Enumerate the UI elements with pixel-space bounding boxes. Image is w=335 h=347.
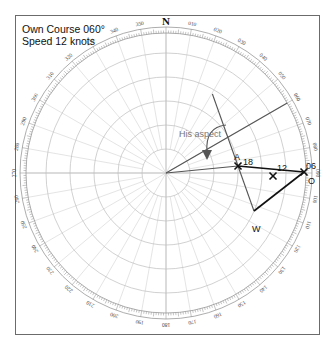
bearing-label: 350: [135, 20, 144, 27]
bearing-label: 070: [304, 116, 313, 126]
time-12-label: 12: [277, 163, 287, 173]
bearing-spoke: [170, 197, 190, 311]
bearing-label: 040: [258, 52, 268, 62]
bearing-label: 180: [162, 322, 171, 328]
bearing-label: 270: [11, 169, 17, 178]
time-18-label: 18: [243, 157, 253, 167]
radar-plotting-sheet: 0100200300400500600700800901001101201301…: [0, 0, 335, 347]
bearing-label: 200: [109, 311, 119, 320]
his-aspect-label: His aspect: [179, 129, 222, 139]
bearing-label: 100: [312, 195, 319, 204]
bearing-label: 240: [30, 244, 39, 254]
bearing-label: 340: [109, 26, 119, 35]
bearing-label: 320: [63, 52, 73, 62]
point-w-label: W: [252, 224, 261, 234]
bearing-spoke: [142, 35, 162, 149]
bearing-spoke: [28, 149, 142, 169]
bearing-label: 050: [277, 70, 287, 80]
bearing-label: 220: [63, 284, 73, 294]
bearing-label: 120: [293, 244, 302, 254]
bearing-label: 230: [45, 265, 55, 275]
bearing-label: 110: [304, 220, 312, 230]
bearing-spoke: [28, 177, 142, 197]
bearing-label: 140: [258, 284, 268, 294]
bearing-label: 280: [13, 142, 20, 151]
bearing-label: 290: [19, 116, 28, 126]
bearing-label: 160: [213, 311, 223, 320]
point-a-label: A: [234, 152, 240, 162]
bearing-label: 170: [188, 319, 197, 326]
bearing-spoke: [190, 177, 304, 197]
bearing-label: 020: [213, 26, 223, 35]
bearing-label: 130: [277, 265, 287, 275]
time-06-label: 06: [306, 161, 316, 171]
bearing-label: 250: [19, 220, 28, 230]
bearing-label: 210: [85, 300, 95, 309]
own-ship-vector-wo: [254, 172, 304, 211]
bearing-label: 260: [13, 195, 20, 204]
bearing-spoke: [184, 83, 273, 158]
bearing-spoke: [76, 66, 151, 155]
bearing-label: 310: [45, 70, 55, 80]
bearing-label: 030: [237, 37, 247, 46]
bearing-spoke: [142, 197, 162, 311]
point-o-label: O: [308, 176, 315, 186]
bearing-label: 300: [30, 92, 39, 102]
bearing-spoke: [59, 188, 148, 263]
bearing-label: 080: [312, 142, 319, 151]
bearing-label: 330: [85, 37, 95, 46]
bearing-label: 190: [135, 319, 144, 326]
north-label: N: [162, 15, 170, 27]
bearing-label: 060: [293, 92, 302, 102]
bearing-spoke: [181, 191, 256, 280]
bearing-label: 010: [188, 20, 197, 27]
bearing-spoke: [76, 191, 151, 280]
bearing-label: 150: [237, 300, 247, 309]
bearing-spoke: [59, 83, 148, 158]
